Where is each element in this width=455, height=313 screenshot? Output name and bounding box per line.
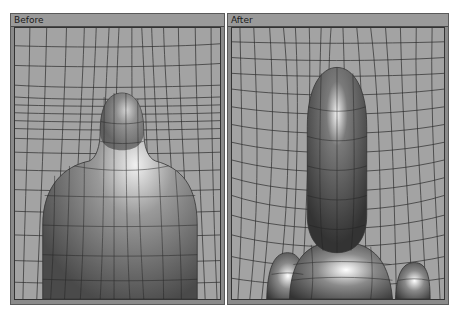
- before-panel: Before: [10, 13, 225, 305]
- before-titlebar: Before: [11, 14, 224, 27]
- after-titlebar: After: [228, 14, 448, 27]
- after-viewport[interactable]: [231, 27, 445, 300]
- after-title: After: [231, 14, 253, 26]
- after-mesh-render: [232, 28, 444, 299]
- after-panel: After: [227, 13, 449, 305]
- before-mesh-render: [15, 28, 220, 299]
- before-title: Before: [14, 14, 43, 26]
- before-viewport[interactable]: [14, 27, 221, 300]
